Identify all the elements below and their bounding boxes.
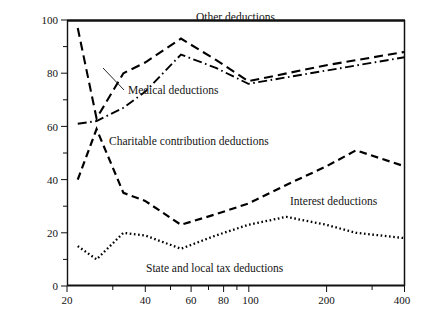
y-tick-label-20: 20: [47, 227, 59, 239]
x-tick-label-80: 80: [218, 294, 230, 306]
series-annotations: Other deductions Medical deductions Char…: [109, 11, 378, 274]
x-tick-label-20: 20: [62, 294, 74, 306]
annotation-other-deductions: Other deductions: [196, 11, 275, 23]
series-line-medical-deductions: [78, 55, 405, 124]
x-tick-label-200: 200: [318, 294, 335, 306]
annotation-charitable-contribution-deductions: Charitable contribution deductions: [109, 135, 269, 147]
y-tick-label-60: 60: [47, 121, 59, 133]
y-tick-label-0: 0: [53, 280, 59, 292]
series-line-state-and-local-tax-deductions: [78, 217, 405, 260]
x-axis-ticks: [67, 286, 405, 292]
medical-deductions-leader: [103, 68, 124, 90]
line-chart: 0 20 40 60 80 100 20 40 60 80: [0, 0, 424, 314]
y-tick-label-80: 80: [47, 67, 59, 79]
y-tick-label-40: 40: [47, 174, 59, 186]
x-tick-label-400: 400: [394, 294, 411, 306]
x-tick-label-40: 40: [140, 294, 152, 306]
x-tick-label-60: 60: [186, 294, 198, 306]
leader-line-icon: [103, 68, 124, 90]
x-tick-label-100: 100: [242, 294, 259, 306]
annotation-interest-deductions: Interest deductions: [290, 195, 378, 207]
chart-figure: 0 20 40 60 80 100 20 40 60 80: [0, 0, 424, 314]
y-axis-ticks: [61, 20, 67, 286]
annotation-state-and-local-tax-deductions: State and local tax deductions: [146, 262, 284, 274]
x-axis-tick-labels: 20 40 60 80 100 200 400: [62, 294, 411, 306]
y-axis-tick-labels: 0 20 40 60 80 100: [42, 14, 59, 292]
annotation-medical-deductions: Medical deductions: [128, 84, 219, 96]
y-tick-label-100: 100: [42, 14, 59, 26]
